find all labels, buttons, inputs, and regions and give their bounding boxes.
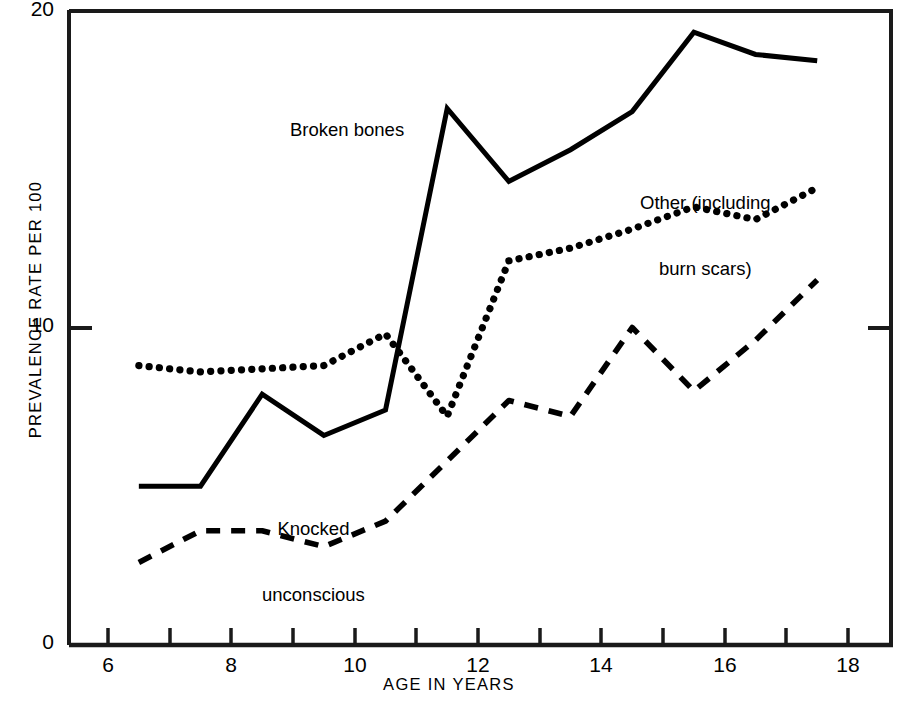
annotation-knocked-line2: unconscious — [262, 584, 365, 606]
x-tick-label-14: 14 — [576, 653, 626, 677]
annotation-other-line2: burn scars) — [640, 258, 771, 280]
x-axis-title: AGE IN YEARS — [0, 675, 898, 694]
x-tick-label-6: 6 — [83, 653, 133, 677]
y-tick-label-20: 20 — [8, 0, 54, 21]
x-tick-label-16: 16 — [700, 653, 750, 677]
annotation-broken-bones: Broken bones — [290, 119, 404, 141]
annotation-other-burn-scars: Other (including burn scars) — [640, 148, 771, 324]
chart-plot-area — [0, 0, 898, 707]
x-tick-label-8: 8 — [206, 653, 256, 677]
chart-figure: 20 10 0 6 8 10 12 14 16 18 PREVALENCE RA… — [0, 0, 898, 707]
x-tick-label-18: 18 — [823, 653, 873, 677]
x-axis-ticks — [108, 628, 848, 645]
annotation-knocked-unconscious: Knocked unconscious — [262, 474, 365, 650]
annotation-knocked-line1: Knocked — [262, 518, 365, 540]
annotation-other-line1: Other (including — [640, 192, 771, 214]
y-tick-label-0: 0 — [8, 630, 54, 654]
y-axis-title: PREVALENCE RATE PER 100 — [26, 130, 45, 490]
x-tick-label-10: 10 — [330, 653, 380, 677]
x-tick-label-12: 12 — [453, 653, 503, 677]
